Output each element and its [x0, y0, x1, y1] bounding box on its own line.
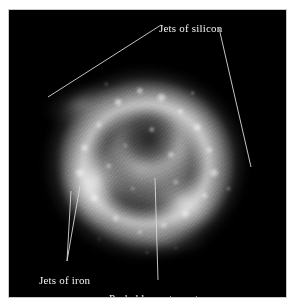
leader-silicon-left [48, 25, 161, 97]
annotation-label-probable-neutron-star: Probable nuetron star [109, 292, 207, 298]
annotation-label-jets-of-iron: Jets of iron [39, 274, 90, 286]
leader-silicon-right [219, 28, 251, 167]
leader-lines [9, 10, 286, 297]
annotation-label-jets-of-silicon: Jets of silicon [159, 22, 223, 34]
annotation-overlay: Jets of silicon Jets of iron Probable nu… [9, 10, 286, 297]
annotated-astronomy-figure: Jets of silicon Jets of iron Probable nu… [0, 0, 294, 305]
image-plate: Jets of silicon Jets of iron Probable nu… [8, 9, 287, 298]
leader-neutron-star [155, 178, 158, 280]
